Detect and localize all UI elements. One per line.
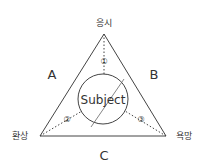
dotted-line-right — [125, 111, 166, 136]
vertex-label-right: 욕망 — [176, 131, 192, 141]
side-label-a: A — [48, 67, 57, 82]
side-label-b: B — [150, 67, 159, 82]
dotted-line-left — [40, 111, 82, 136]
marker-1: ① — [100, 57, 107, 66]
triangle-diagram: 응시 환상 욕망 A B C Subject ① ② ③ — [0, 0, 208, 168]
vertex-label-top: 응시 — [96, 18, 112, 28]
side-label-c: C — [99, 148, 108, 163]
marker-2: ② — [63, 115, 70, 124]
vertex-label-left: 환상 — [12, 130, 28, 141]
subject-label: Subject — [81, 93, 126, 107]
marker-3: ③ — [137, 115, 144, 124]
